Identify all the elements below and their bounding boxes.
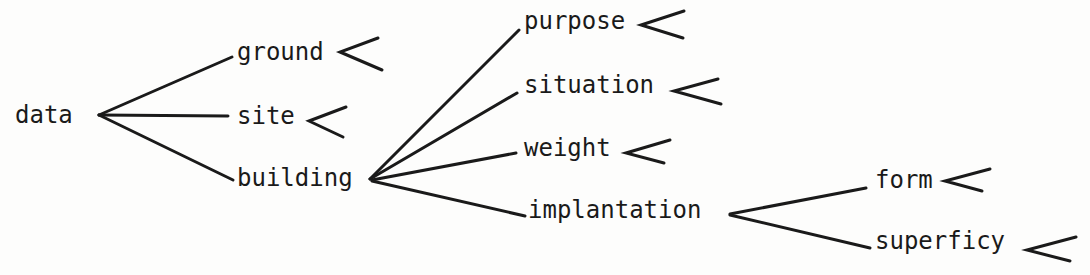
fork-icon-site bbox=[309, 107, 346, 137]
node-site: site bbox=[237, 104, 295, 128]
node-situation: situation bbox=[524, 73, 654, 97]
node-form: form bbox=[875, 168, 933, 192]
edge-implantation-superficy bbox=[730, 215, 870, 248]
node-purpose: purpose bbox=[524, 9, 625, 33]
fork-icon-superficy bbox=[1027, 237, 1076, 261]
node-weight: weight bbox=[524, 136, 611, 160]
fork-icon-ground bbox=[340, 38, 382, 70]
node-implantation: implantation bbox=[528, 198, 701, 222]
tree-diagram: data ground site building purpose situat… bbox=[0, 0, 1090, 275]
edge-data-site bbox=[99, 115, 228, 116]
fork-icon-purpose bbox=[641, 11, 684, 38]
edge-data-building bbox=[99, 115, 233, 180]
fork-icon-situation bbox=[674, 79, 721, 104]
edge-building-implantation bbox=[372, 181, 525, 216]
edge-implantation-form bbox=[730, 188, 866, 214]
edge-data-ground bbox=[99, 57, 232, 115]
fork-icon-weight bbox=[626, 140, 670, 163]
node-ground: ground bbox=[237, 40, 324, 64]
node-superficy: superficy bbox=[875, 229, 1005, 253]
fork-icon-form bbox=[945, 169, 990, 191]
node-data: data bbox=[15, 103, 73, 127]
node-building: building bbox=[237, 166, 353, 190]
